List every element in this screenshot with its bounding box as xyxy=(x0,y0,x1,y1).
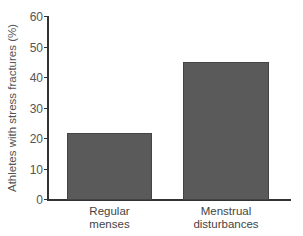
category-label-line: Menstrual xyxy=(193,205,258,218)
category-label-line: Regular xyxy=(89,205,129,218)
y-tick-label: 60 xyxy=(30,10,43,24)
y-tick xyxy=(44,47,48,48)
y-tick xyxy=(44,77,48,78)
bar-chart: Athletes with stress fractures (%) 01020… xyxy=(0,0,303,236)
y-tick xyxy=(44,108,48,109)
y-tick xyxy=(44,199,48,200)
y-tick-label: 0 xyxy=(36,193,43,207)
category-label-line: disturbances xyxy=(193,218,258,231)
bar-0 xyxy=(67,133,152,200)
y-tick-label: 30 xyxy=(30,102,43,116)
y-tick-label: 40 xyxy=(30,71,43,85)
bar-1 xyxy=(183,62,269,200)
y-tick-label: 50 xyxy=(30,41,43,55)
y-tick-label: 10 xyxy=(30,163,43,177)
category-label-line: menses xyxy=(89,218,129,231)
y-tick-label: 20 xyxy=(30,132,43,146)
category-label: Menstrualdisturbances xyxy=(193,205,258,231)
y-tick xyxy=(44,16,48,17)
y-tick xyxy=(44,138,48,139)
y-tick xyxy=(44,169,48,170)
category-label: Regularmenses xyxy=(89,205,129,231)
y-axis-title-text: Athletes with stress fractures (%) xyxy=(6,24,18,192)
